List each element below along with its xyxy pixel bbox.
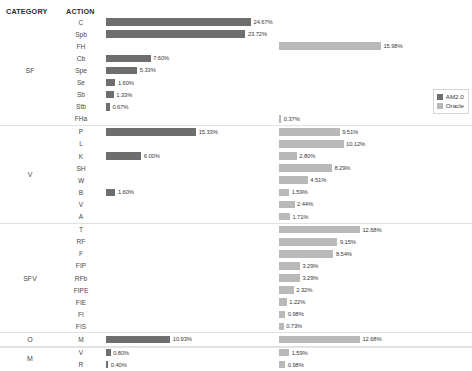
action-label: FHa (60, 115, 106, 122)
action-label: Sb (60, 91, 106, 98)
pane-am20 (106, 174, 279, 186)
action-label: Stb (60, 103, 106, 110)
bar-panes: 1.60%1.59% (106, 186, 472, 198)
bar-value-label: 1.59% (292, 350, 308, 356)
action-label: Spe (60, 67, 106, 74)
pane-am20: 5.33% (106, 64, 279, 76)
bar-group: 6.00% (106, 150, 160, 162)
chart-row: FIPE2.32% (60, 284, 472, 296)
bar-panes: 1.22% (106, 296, 472, 308)
bar-group: 0.98% (279, 359, 304, 371)
bar-value-label: 4.51% (310, 177, 326, 183)
chart-row: FIP3.29% (60, 260, 472, 272)
chart-row: Se1.60% (60, 76, 472, 88)
bar-group: 1.59% (279, 347, 308, 359)
chart-row: FH15.98% (60, 40, 472, 52)
bar-group: 7.60% (106, 52, 169, 64)
bar-am20 (106, 55, 151, 63)
bar-panes: 8.29% (106, 162, 472, 174)
pane-oracle: 0.98% (279, 359, 472, 371)
pane-am20 (106, 162, 279, 174)
pane-oracle: 12.68% (279, 224, 472, 236)
bar-value-label: 15.98% (383, 43, 402, 49)
bar-panes: 6.00%2.80% (106, 150, 472, 162)
bar-oracle (279, 286, 294, 294)
bar-group: 2.44% (279, 198, 313, 210)
pane-am20 (106, 211, 279, 223)
action-label: Spb (60, 31, 106, 38)
legend-label-am20: AM2.0 (446, 93, 464, 100)
bar-am20 (106, 349, 111, 357)
category-rows: M10.93%12.68% (60, 333, 472, 345)
pane-am20 (106, 236, 279, 248)
bar-panes: 0.37% (106, 113, 472, 125)
action-label: A (60, 213, 106, 220)
bar-value-label: 5.33% (140, 67, 156, 73)
bar-panes: 0.67% (106, 101, 472, 113)
action-label: C (60, 19, 106, 26)
action-label: R (60, 361, 106, 368)
category-group: SFVT12.68%RF9.15%F8.54%FIP3.29%RFb3.29%F… (0, 223, 472, 333)
bar-panes: 4.51% (106, 174, 472, 186)
bar-value-label: 2.32% (296, 287, 312, 293)
bar-am20 (106, 30, 245, 38)
bar-value-label: 0.73% (286, 323, 302, 329)
bar-group: 2.80% (279, 150, 315, 162)
pane-oracle: 2.44% (279, 198, 472, 210)
action-label: V (60, 201, 106, 208)
action-label: FI (60, 311, 106, 318)
bar-oracle (279, 226, 360, 234)
bar-group: 5.33% (106, 64, 156, 76)
column-header-action: ACTION (66, 7, 112, 16)
bar-group: 2.32% (279, 284, 312, 296)
bar-group: 0.67% (106, 101, 128, 113)
pane-am20 (106, 138, 279, 150)
legend-item-oracle: Oracle (437, 101, 464, 110)
pane-am20: 15.33% (106, 126, 279, 138)
bar-panes: 0.40%0.98% (106, 359, 472, 371)
chart-row: W4.51% (60, 174, 472, 186)
bar-panes: 23.72% (106, 28, 472, 40)
bar-group: 12.68% (279, 224, 381, 236)
bar-oracle (279, 262, 300, 270)
bottom-divider (0, 347, 472, 348)
chart-row: R0.40%0.98% (60, 359, 472, 371)
bar-value-label: 0.40% (111, 362, 127, 368)
bar-value-label: 24.67% (254, 19, 273, 25)
legend-label-oracle: Oracle (446, 102, 464, 109)
bar-value-label: 6.00% (144, 153, 160, 159)
pane-oracle: 12.68% (279, 333, 472, 345)
pane-am20 (106, 260, 279, 272)
bar-value-label: 23.72% (248, 31, 267, 37)
action-label: SH (60, 165, 106, 172)
chart-row: V2.44% (60, 198, 472, 210)
action-label: RFb (60, 275, 106, 282)
bar-panes: 15.33%9.51% (106, 126, 472, 138)
pane-am20: 0.67% (106, 101, 279, 113)
pane-am20: 7.60% (106, 52, 279, 64)
chart-row: B1.60%1.59% (60, 186, 472, 198)
bar-am20 (106, 128, 196, 136)
bar-panes: 1.71% (106, 211, 472, 223)
category-label-sfv: SFV (0, 224, 60, 333)
bar-oracle (279, 274, 300, 282)
chart-row: FI0.98% (60, 308, 472, 320)
pane-oracle: 0.73% (279, 320, 472, 332)
bar-value-label: 0.37% (284, 116, 300, 122)
chart-row: L10.12% (60, 138, 472, 150)
pane-oracle: 1.59% (279, 347, 472, 359)
bar-panes: 3.29% (106, 260, 472, 272)
action-label: Se (60, 79, 106, 86)
action-label: FIPE (60, 287, 106, 294)
bar-oracle (279, 361, 285, 369)
category-label-sf: SF (0, 16, 60, 125)
action-label: F (60, 250, 106, 257)
pane-oracle: 3.29% (279, 272, 472, 284)
pane-oracle: 2.80% (279, 150, 472, 162)
pane-oracle: 1.59% (279, 186, 472, 198)
bar-group: 3.29% (279, 272, 318, 284)
bar-am20 (106, 91, 114, 99)
action-label: Cb (60, 55, 106, 62)
bar-panes: 3.29% (106, 272, 472, 284)
